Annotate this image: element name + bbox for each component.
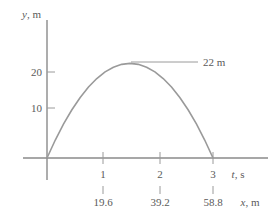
projectile-trajectory-chart: 20 10 y, m 1 2 3 t, s 19.6 39.2 58.8 x, …	[0, 0, 277, 212]
y-tick-label-10: 10	[31, 102, 43, 114]
peak-height-annotation: 22 m	[203, 56, 226, 68]
x-axis-title-distance: x, m	[240, 196, 260, 208]
y-axis-title: y, m	[21, 8, 41, 20]
x-tick-label-2: 2	[157, 168, 163, 180]
x2-tick-label-588: 58.8	[203, 196, 223, 208]
y-tick-label-20: 20	[31, 66, 43, 78]
x-tick-label-3: 3	[210, 168, 216, 180]
x-axis-title-time: t, s	[232, 168, 245, 180]
chart-svg: 20 10 y, m 1 2 3 t, s 19.6 39.2 58.8 x, …	[0, 0, 277, 212]
x2-tick-label-392: 39.2	[150, 196, 169, 208]
x2-tick-label-196: 19.6	[93, 196, 113, 208]
trajectory-curve	[47, 63, 213, 158]
x-tick-label-1: 1	[100, 168, 106, 180]
